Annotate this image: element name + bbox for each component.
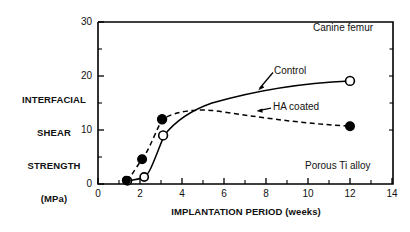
control-point-2 bbox=[140, 173, 148, 181]
y-tick-label-20: 20 bbox=[62, 70, 92, 81]
porous-ti-alloy-note: Porous Ti alloy bbox=[305, 160, 371, 171]
y-axis-title-line-3: STRENGTH bbox=[12, 160, 96, 171]
x-tick-label-2: 2 bbox=[130, 188, 150, 199]
control-point-4 bbox=[346, 77, 355, 86]
control-leader-arrow bbox=[258, 73, 273, 91]
x-tick-label-4: 4 bbox=[172, 188, 192, 199]
y-tick-label-30: 30 bbox=[62, 16, 92, 27]
ha-point-4 bbox=[346, 122, 355, 131]
ha-point-1 bbox=[122, 176, 130, 184]
y-axis-title: INTERFACIAL SHEAR STRENGTH (MPa) bbox=[12, 72, 96, 226]
canine-femur-note: Canine femur bbox=[313, 22, 373, 33]
x-tick-label-6: 6 bbox=[214, 188, 234, 199]
y-axis-title-line-1: INTERFACIAL bbox=[12, 94, 96, 105]
ha-coated-series-label: HA coated bbox=[273, 101, 319, 112]
ha-coated-markers bbox=[122, 115, 354, 185]
ha-point-3 bbox=[158, 115, 167, 124]
control-point-3 bbox=[159, 131, 168, 140]
chart-figure: INTERFACIAL SHEAR STRENGTH (MPa) IMPLANT… bbox=[0, 0, 410, 232]
x-tick-label-12: 12 bbox=[340, 188, 360, 199]
x-tick-label-10: 10 bbox=[298, 188, 318, 199]
x-tick-label-14: 14 bbox=[382, 188, 402, 199]
ha-point-2 bbox=[138, 155, 147, 164]
ha-coated-leader-arrow bbox=[257, 108, 272, 113]
x-tick-label-0: 0 bbox=[88, 188, 108, 199]
control-series-label: Control bbox=[274, 65, 306, 76]
x-axis-title: IMPLANTATION PERIOD (weeks) bbox=[98, 206, 394, 217]
y-tick-label-10: 10 bbox=[62, 124, 92, 135]
y-axis-title-line-4: (MPa) bbox=[12, 193, 96, 204]
x-tick-label-8: 8 bbox=[256, 188, 276, 199]
